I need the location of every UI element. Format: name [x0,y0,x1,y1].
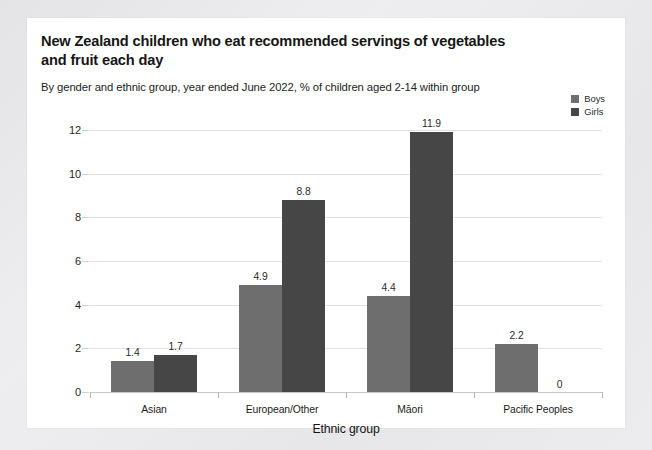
y-axis-tick-label: 0 [75,386,81,398]
legend-item-girls: Girls [571,107,605,116]
bar-girls-0: 1.7 [154,355,197,392]
chart-card: New Zealand children who eat recommended… [27,18,625,428]
y-axis-tick-mark [82,261,89,262]
y-axis-tick-label: 4 [75,299,81,311]
y-axis-tick-mark [82,217,89,218]
bar-boys-3: 2.2 [495,344,538,392]
x-axis-tick-mark [90,392,91,398]
bar-value-label: 11.9 [422,118,441,129]
gridline [90,174,602,175]
y-axis-tick-mark [82,130,89,131]
x-axis-category-label: Māori [397,404,422,415]
chart-subtitle: By gender and ethnic group, year ended J… [41,80,561,95]
x-axis-category-label: Asian [141,404,167,415]
gridline [90,217,602,218]
legend-item-label: Boys [584,94,605,103]
bar-value-label: 4.4 [381,282,395,293]
page-background: New Zealand children who eat recommended… [0,0,652,450]
y-axis-tick-label: 2 [75,342,81,354]
legend-swatch-icon [571,108,579,116]
chart-legend: BoysGirls [571,94,605,117]
chart-title: New Zealand children who eat recommended… [41,32,511,71]
y-axis-tick-label: 10 [69,168,81,180]
gridline [90,261,602,262]
gridline [90,305,602,306]
y-axis-tick-mark [82,348,89,349]
y-axis-tick-mark [82,392,89,393]
bar-value-label: 8.8 [296,186,310,197]
x-axis-tick-mark [346,392,347,398]
bar-value-label: 1.7 [168,341,182,352]
legend-item-label: Girls [584,107,603,116]
bar-girls-1: 8.8 [282,200,325,392]
bar-girls-2: 11.9 [410,132,453,392]
gridline [90,130,602,131]
legend-item-boys: Boys [571,94,605,103]
bar-value-label: 4.9 [253,271,267,282]
bar-value-label: 1.4 [125,347,139,358]
x-axis-title: Ethnic group [312,422,379,436]
x-axis-tick-mark [602,392,603,398]
bar-value-label: 2.2 [509,330,523,341]
y-axis-tick-label: 8 [75,211,81,223]
bar-boys-1: 4.9 [239,285,282,392]
y-axis-tick-label: 12 [69,124,81,136]
y-axis-tick-label: 6 [75,255,81,267]
y-axis-tick-mark [82,305,89,306]
x-axis-tick-mark [218,392,219,398]
bar-boys-2: 4.4 [367,296,410,392]
bar-boys-0: 1.4 [111,361,154,392]
legend-swatch-icon [571,95,579,103]
bar-value-label: 0 [557,379,563,390]
x-axis-category-label: European/Other [246,404,319,415]
plot-area: 024681012 1.41.74.98.84.411.92.20 AsianE… [90,130,602,392]
y-axis-tick-mark [82,174,89,175]
x-axis-category-label: Pacific Peoples [503,404,573,415]
x-axis-tick-mark [474,392,475,398]
